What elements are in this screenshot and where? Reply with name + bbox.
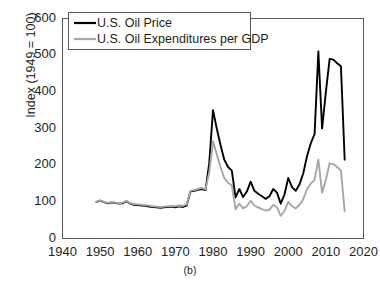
legend-label-oil-expenditures: U.S. Oil Expenditures per GDP (97, 32, 269, 46)
y-tick-label: 200 (16, 156, 56, 171)
legend-label-oil-price: U.S. Oil Price (97, 16, 172, 30)
x-tick-label: 2020 (342, 244, 380, 259)
chart-figure: U.S. Oil Price U.S. Oil Expenditures per… (0, 0, 380, 284)
y-tick-label: 300 (16, 120, 56, 135)
y-tick-label: 400 (16, 83, 56, 98)
y-tick-label: 500 (16, 46, 56, 61)
y-tick-label: 0 (16, 230, 56, 245)
y-tick-label: 100 (16, 193, 56, 208)
y-tick-label: 600 (16, 10, 56, 25)
panel-label: (b) (0, 264, 380, 276)
